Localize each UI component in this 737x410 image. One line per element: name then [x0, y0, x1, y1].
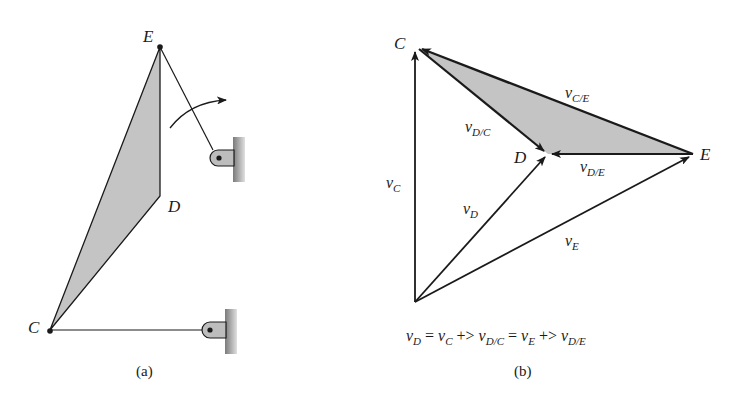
label-c-b: C	[394, 34, 406, 53]
label-d-a: D	[167, 197, 181, 216]
label-v-c: vC	[386, 174, 401, 194]
label-v-ce: vC/E	[565, 84, 590, 104]
upper-pin-support	[210, 137, 245, 182]
label-e-b: E	[699, 145, 711, 164]
label-d-b: D	[513, 148, 527, 167]
label-v-d: vD	[463, 200, 478, 220]
figure-a: E D C (a)	[28, 27, 245, 380]
label-v-e: vE	[565, 232, 579, 252]
plate-cde	[50, 47, 160, 330]
lower-pin-support	[202, 309, 237, 354]
label-v-dc: vD/C	[465, 118, 491, 138]
joint-c	[47, 328, 53, 334]
caption-b: (b)	[514, 363, 532, 380]
link-upper	[160, 47, 213, 150]
figure-b: C D E vC/E vD/C vD/E vC vD vE vD = vC +>…	[386, 34, 711, 380]
diagram-canvas: E D C (a) C D E vC/E vD/C vD/E vC	[0, 0, 737, 410]
joint-e	[157, 44, 163, 50]
caption-a: (a)	[136, 363, 153, 380]
label-v-de: vD/E	[580, 158, 605, 178]
label-c-a: C	[28, 318, 40, 337]
label-e-a: E	[142, 27, 154, 46]
vector-v-d	[415, 157, 545, 302]
velocity-equation: vD = vC +> vD/C = vE +> vD/E	[406, 327, 586, 347]
rotation-arrow-icon	[170, 100, 226, 128]
vector-v-e	[415, 157, 689, 302]
